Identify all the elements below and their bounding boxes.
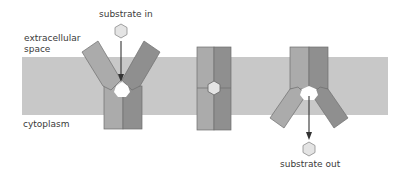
substrate-hexagon-in xyxy=(115,24,127,38)
label-substrate-in: substrate in xyxy=(99,9,153,20)
substrate-hexagon-bound xyxy=(208,81,220,95)
label-extracellular: extracellular xyxy=(24,33,80,44)
label-cytoplasm: cytoplasm xyxy=(23,119,70,130)
transporter-diagram xyxy=(0,0,406,177)
label-substrate-out: substrate out xyxy=(280,159,340,170)
label-space: space xyxy=(24,44,50,55)
substrate-hexagon-out xyxy=(303,142,315,156)
transporter-occluded xyxy=(197,47,231,130)
